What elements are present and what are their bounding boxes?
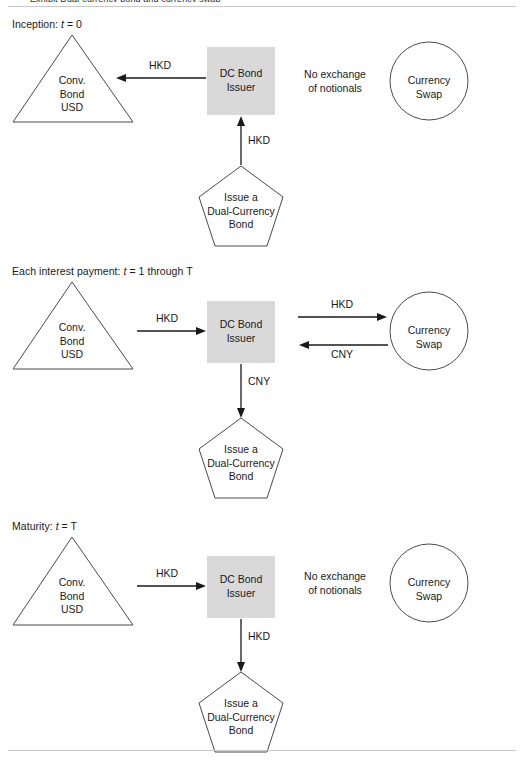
arrow-issuer-to-bond-hkd <box>116 74 206 82</box>
dc-bond-issuer-label: DC Bond Issuer <box>207 318 275 345</box>
arrow-issuer-to-pentagon-cny <box>237 364 245 418</box>
currency-swap-line-2: Swap <box>395 88 463 102</box>
no-exchange-line-1: No exchange <box>292 570 378 584</box>
arrow-issuer-to-swap-hkd <box>298 313 387 321</box>
pentagon-line-1: Issue a <box>191 697 291 711</box>
label-bond-to-issuer-hkd: HKD <box>147 312 187 325</box>
conv-bond-line-2: Bond <box>42 88 102 102</box>
label-issuer-to-pentagon-cny: CNY <box>248 375 282 388</box>
pentagon-line-2: Dual-Currency <box>191 711 291 725</box>
dc-bond-issuer-line-1: DC Bond <box>207 573 275 587</box>
conv-bond-label: Conv. Bond USD <box>42 74 102 115</box>
dc-bond-issuer-line-2: Issuer <box>207 332 275 346</box>
currency-swap-line-2: Swap <box>395 338 463 352</box>
currency-swap-label: Currency Swap <box>395 74 463 101</box>
dc-bond-issuer-line-1: DC Bond <box>207 318 275 332</box>
panel-maturity: Maturity: t = T Conv. Bond USD DC Bond <box>0 520 524 750</box>
conv-bond-line-1: Conv. <box>42 74 102 88</box>
label-bond-to-issuer-hkd: HKD <box>147 567 187 580</box>
no-exchange-note: No exchange of notionals <box>292 68 378 95</box>
currency-swap-line-1: Currency <box>395 576 463 590</box>
arrow-pentagon-to-issuer-hkd <box>237 116 245 165</box>
no-exchange-line-1: No exchange <box>292 68 378 82</box>
currency-swap-line-1: Currency <box>395 74 463 88</box>
arrow-bond-to-issuer-hkd <box>137 327 206 335</box>
pentagon-line-2: Dual-Currency <box>191 457 291 471</box>
conv-bond-line-3: USD <box>42 603 102 617</box>
dc-bond-issuer-line-1: DC Bond <box>207 67 275 81</box>
conv-bond-label: Conv. Bond USD <box>42 576 102 617</box>
pentagon-line-3: Bond <box>191 724 291 738</box>
conv-bond-line-1: Conv. <box>42 321 102 335</box>
dc-bond-issuer-label: DC Bond Issuer <box>207 67 275 94</box>
cut-off-caption: Exhibit Dual-currency bond and currency … <box>30 0 490 2</box>
dc-bond-issuer-line-2: Issuer <box>207 587 275 601</box>
currency-swap-label: Currency Swap <box>395 324 463 351</box>
label-pentagon-to-issuer-hkd: HKD <box>248 134 282 147</box>
conv-bond-label: Conv. Bond USD <box>42 321 102 362</box>
bottom-rule <box>8 750 516 751</box>
diagram-page: Exhibit Dual-currency bond and currency … <box>0 0 524 760</box>
issue-bond-pentagon-label: Issue a Dual-Currency Bond <box>191 443 291 484</box>
dc-bond-issuer-line-2: Issuer <box>207 81 275 95</box>
conv-bond-line-3: USD <box>42 348 102 362</box>
conv-bond-line-3: USD <box>42 101 102 115</box>
top-rule <box>8 6 516 7</box>
no-exchange-note: No exchange of notionals <box>292 570 378 597</box>
pentagon-line-2: Dual-Currency <box>191 205 291 219</box>
arrow-bond-to-issuer-hkd <box>137 582 206 590</box>
panel-inception: Inception: t = 0 Conv. Bond <box>0 18 524 248</box>
pentagon-line-3: Bond <box>191 218 291 232</box>
no-exchange-line-2: of notionals <box>292 82 378 96</box>
label-swap-to-issuer-cny: CNY <box>322 348 362 361</box>
dc-bond-issuer-label: DC Bond Issuer <box>207 573 275 600</box>
conv-bond-line-2: Bond <box>42 590 102 604</box>
currency-swap-line-1: Currency <box>395 324 463 338</box>
pentagon-line-1: Issue a <box>191 191 291 205</box>
arrow-issuer-to-pentagon-hkd <box>237 619 245 672</box>
currency-swap-label: Currency Swap <box>395 576 463 603</box>
no-exchange-line-2: of notionals <box>292 584 378 598</box>
label-issuer-to-bond-hkd: HKD <box>140 59 180 72</box>
issue-bond-pentagon-label: Issue a Dual-Currency Bond <box>191 697 291 738</box>
conv-bond-line-2: Bond <box>42 335 102 349</box>
label-issuer-to-pentagon-hkd: HKD <box>248 630 282 643</box>
panel-interest-payment: Each interest payment: t = 1 through T <box>0 265 524 505</box>
pentagon-line-1: Issue a <box>191 443 291 457</box>
pentagon-line-3: Bond <box>191 470 291 484</box>
issue-bond-pentagon-label: Issue a Dual-Currency Bond <box>191 191 291 232</box>
conv-bond-line-1: Conv. <box>42 576 102 590</box>
currency-swap-line-2: Swap <box>395 590 463 604</box>
label-issuer-to-swap-hkd: HKD <box>322 298 362 311</box>
